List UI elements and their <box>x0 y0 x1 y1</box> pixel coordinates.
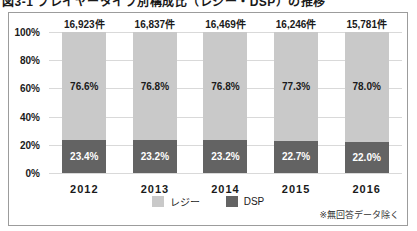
legend-item-leisure: レジー <box>152 194 200 209</box>
segment-value-label: 78.0% <box>352 81 380 92</box>
segment-value-label: 23.2% <box>141 151 169 162</box>
y-axis-tick: 0% <box>26 168 40 179</box>
legend: レジー DSP <box>9 194 407 209</box>
bar-group-2013: 16,837件 76.8% 23.2% 2013 <box>120 32 191 173</box>
figure-title-text: 図3-1 プレイヤータイプ別構成比（レジー・DSP）の推移 <box>2 0 402 9</box>
stacked-bar: 77.3% 22.7% <box>274 32 318 173</box>
stacked-bar: 78.0% 22.0% <box>345 32 389 173</box>
segment-leisure: 77.3% <box>274 32 318 141</box>
stacked-bar: 76.8% 23.2% <box>133 32 177 173</box>
legend-label: DSP <box>244 196 265 207</box>
segment-value-label: 22.0% <box>352 152 380 163</box>
segment-dsp: 23.2% <box>133 140 177 173</box>
legend-swatch-leisure <box>152 196 164 207</box>
bar-group-2012: 16,923件 76.6% 23.4% 2012 <box>49 32 120 173</box>
total-count-label: 16,923件 <box>49 16 120 31</box>
figure-title-clipped: 図3-1 プレイヤータイプ別構成比（レジー・DSP）の推移 <box>2 0 402 9</box>
bar-group-2016: 15,781件 78.0% 22.0% 2016 <box>331 32 402 173</box>
segment-value-label: 76.8% <box>141 81 169 92</box>
y-axis-tick: 40% <box>20 111 40 122</box>
footnote: ※無回答データ除く <box>319 208 399 221</box>
segment-dsp: 23.4% <box>62 140 106 173</box>
segment-value-label: 23.2% <box>211 151 239 162</box>
segment-dsp: 23.2% <box>203 140 247 173</box>
y-axis-tick: 100% <box>14 27 40 38</box>
bar-group-2015: 16,246件 77.3% 22.7% 2015 <box>261 32 332 173</box>
segment-leisure: 76.8% <box>203 32 247 140</box>
y-axis: 100% 80% 60% 40% 20% 0% <box>9 32 45 173</box>
bar-columns: 16,923件 76.6% 23.4% 2012 16,837件 76.8% 2… <box>49 32 402 173</box>
chart-area: 100% 80% 60% 40% 20% 0% 16,923件 <box>8 12 408 226</box>
total-count-label: 16,469件 <box>190 16 261 31</box>
plot-area: 16,923件 76.6% 23.4% 2012 16,837件 76.8% 2… <box>49 32 402 173</box>
stacked-bar: 76.6% 23.4% <box>62 32 106 173</box>
segment-leisure: 76.6% <box>62 32 106 140</box>
segment-value-label: 23.4% <box>70 151 98 162</box>
segment-value-label: 77.3% <box>282 81 310 92</box>
legend-label: レジー <box>170 194 200 209</box>
plot-wrap: 100% 80% 60% 40% 20% 0% 16,923件 <box>9 13 407 225</box>
gridline <box>49 173 402 174</box>
total-count-label: 16,837件 <box>120 16 191 31</box>
y-axis-tick: 60% <box>20 83 40 94</box>
legend-swatch-dsp <box>226 196 238 207</box>
y-axis-tick: 20% <box>20 139 40 150</box>
segment-value-label: 22.7% <box>282 151 310 162</box>
segment-leisure: 76.8% <box>133 32 177 140</box>
legend-item-dsp: DSP <box>226 196 265 207</box>
stacked-bar: 76.8% 23.2% <box>203 32 247 173</box>
total-count-label: 15,781件 <box>331 16 402 31</box>
segment-value-label: 76.8% <box>211 81 239 92</box>
segment-dsp: 22.0% <box>345 142 389 173</box>
y-axis-tick: 80% <box>20 55 40 66</box>
segment-value-label: 76.6% <box>70 81 98 92</box>
bar-group-2014: 16,469件 76.8% 23.2% 2014 <box>190 32 261 173</box>
figure-3-1: 図3-1 プレイヤータイプ別構成比（レジー・DSP）の推移 100% 80% 6… <box>0 0 417 231</box>
segment-leisure: 78.0% <box>345 32 389 142</box>
segment-dsp: 22.7% <box>274 141 318 173</box>
total-count-label: 16,246件 <box>261 16 332 31</box>
